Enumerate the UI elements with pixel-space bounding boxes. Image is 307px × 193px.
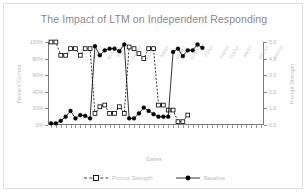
chart-container: The Impact of LTM on Independent Respond… (3, 3, 303, 189)
x-tick (105, 125, 106, 128)
y-axis-title-left-text: Percent Correct (16, 64, 22, 103)
data-point-prompt-strength (83, 47, 87, 51)
x-tick (173, 125, 174, 128)
x-tick (80, 125, 81, 128)
data-point-baseline (54, 121, 58, 125)
data-point-prompt-strength (171, 108, 175, 112)
x-tick (178, 125, 179, 128)
x-tick (144, 125, 145, 128)
x-tick (168, 125, 169, 128)
x-tick (212, 125, 213, 128)
data-point-baseline (59, 119, 63, 123)
data-point-prompt-strength (132, 47, 136, 51)
data-point-baseline (64, 115, 68, 119)
x-tick (188, 125, 189, 128)
data-point-baseline (88, 116, 92, 120)
data-point-baseline (157, 115, 161, 119)
y-tick-label-left: 20% (33, 105, 43, 111)
y-tick-left (45, 125, 48, 126)
y-tick-right (264, 59, 267, 60)
series-line-baseline (51, 44, 202, 123)
data-point-prompt-strength (49, 40, 53, 44)
y-tick-label-left: 60% (33, 72, 43, 78)
x-tick (71, 125, 72, 128)
y-tick-label-left: 40% (33, 89, 43, 95)
data-point-baseline (98, 53, 102, 57)
x-tick (66, 125, 67, 128)
data-point-baseline (83, 114, 87, 118)
data-point-baseline (69, 109, 73, 113)
x-tick (61, 125, 62, 128)
data-point-baseline (166, 115, 170, 119)
y-tick-label-right: 5.0 (269, 39, 276, 45)
y-tick-right (264, 75, 267, 76)
x-tick (90, 125, 91, 128)
data-point-baseline (49, 121, 53, 125)
data-point-baseline (103, 48, 107, 52)
data-point-prompt-strength (152, 47, 156, 51)
y-tick-right (264, 125, 267, 126)
legend-marker-square-icon (83, 174, 109, 182)
x-tick (207, 125, 208, 128)
x-tick (114, 125, 115, 128)
data-point-prompt-strength (186, 113, 190, 117)
x-tick (246, 125, 247, 128)
legend-item-baseline[interactable]: Baseline (175, 174, 225, 182)
y-tick-right (264, 108, 267, 109)
data-point-prompt-strength (181, 120, 185, 124)
x-tick-label: 8/22/12 (272, 45, 284, 60)
data-point-baseline (161, 115, 165, 119)
x-tick (232, 125, 233, 128)
data-point-baseline (78, 113, 82, 117)
x-tick (100, 125, 101, 128)
data-point-prompt-strength (78, 53, 82, 57)
data-point-prompt-strength (69, 47, 73, 51)
legend-label: Baseline (204, 175, 225, 181)
data-point-baseline (74, 116, 78, 120)
data-point-prompt-strength (117, 105, 121, 109)
x-tick (237, 125, 238, 128)
data-point-prompt-strength (54, 40, 58, 44)
x-tick (139, 125, 140, 128)
data-point-baseline (113, 47, 117, 51)
chart-title: The Impact of LTM on Independent Respond… (4, 13, 304, 25)
data-point-baseline (176, 47, 180, 51)
x-tick (261, 125, 262, 128)
data-point-baseline (142, 106, 146, 110)
x-tick (163, 125, 164, 128)
x-tick (222, 125, 223, 128)
x-tick (193, 125, 194, 128)
y-tick-label-right: 3.0 (269, 72, 276, 78)
x-tick (149, 125, 150, 128)
data-point-prompt-strength (103, 103, 107, 107)
data-point-baseline (181, 54, 185, 58)
data-point-baseline (171, 50, 175, 54)
x-tick (95, 125, 96, 128)
x-tick (241, 125, 242, 128)
data-point-prompt-strength (176, 120, 180, 124)
data-point-prompt-strength (122, 111, 126, 115)
data-point-baseline (196, 43, 200, 47)
y-tick-label-left: 100% (30, 39, 43, 45)
data-point-prompt-strength (147, 47, 151, 51)
data-point-prompt-strength (93, 111, 97, 115)
y-tick-label-right: 1.0 (269, 105, 276, 111)
y-tick-label-left: 0% (36, 122, 44, 128)
data-point-prompt-strength (88, 47, 92, 51)
data-point-baseline (191, 48, 195, 52)
x-tick (129, 125, 130, 128)
x-tick (85, 125, 86, 128)
legend-item-prompt-strength[interactable]: Prompt Strength (83, 174, 153, 182)
data-point-prompt-strength (59, 53, 63, 57)
data-point-prompt-strength (113, 111, 117, 115)
data-point-prompt-strength (127, 45, 131, 49)
x-tick (202, 125, 203, 128)
data-point-prompt-strength (137, 52, 141, 56)
data-point-baseline (152, 112, 156, 116)
data-point-prompt-strength (157, 103, 161, 107)
data-point-prompt-strength (142, 57, 146, 61)
x-tick (75, 125, 76, 128)
data-point-baseline (186, 48, 190, 52)
data-point-prompt-strength (98, 105, 102, 109)
data-point-baseline (201, 46, 205, 50)
